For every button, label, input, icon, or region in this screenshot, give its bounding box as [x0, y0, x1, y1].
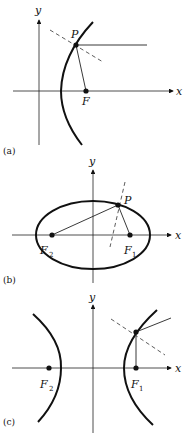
- x-axis-label: x: [176, 85, 183, 98]
- focus-f1-label: F: [123, 244, 132, 257]
- focus-f2-label: F: [39, 244, 48, 257]
- caption-b: (b): [3, 275, 16, 285]
- caption-c: (c): [3, 417, 15, 427]
- tangent-line: [111, 319, 165, 355]
- focus-f2: [46, 365, 51, 370]
- y-axis-label: y: [88, 291, 96, 304]
- focus-f1-subscript: 1: [132, 251, 136, 259]
- focus-f2-label: F: [39, 378, 48, 391]
- point-p: [73, 42, 78, 47]
- point-p: [115, 202, 120, 207]
- conic-sections-figure: x y P F (a) x y P F 2 F 1 (b) x y: [0, 0, 193, 435]
- point-p-label: P: [70, 28, 79, 41]
- focus-f-label: F: [81, 95, 90, 108]
- ray-to-f1: [118, 205, 130, 235]
- point-p: [133, 329, 138, 334]
- y-axis-label: y: [88, 155, 96, 168]
- x-axis-label: x: [175, 362, 182, 375]
- focus-f1: [133, 365, 138, 370]
- focus-f2: [49, 232, 54, 237]
- focus-f2-subscript: 2: [49, 251, 53, 259]
- panel-c-hyperbola: x y F 2 F 1 (c): [3, 291, 182, 433]
- point-p-label: P: [123, 194, 132, 207]
- focus-f: [83, 88, 88, 93]
- panel-a-parabola: x y P F (a): [3, 4, 183, 156]
- x-axis-label: x: [175, 229, 182, 242]
- y-axis-label: y: [34, 4, 42, 17]
- panel-b-ellipse: x y P F 2 F 1 (b): [3, 155, 182, 285]
- reflected-ray: [76, 45, 86, 91]
- focus-f1-subscript: 1: [139, 385, 143, 393]
- ray-from-f2: [52, 205, 118, 235]
- focus-f2-subscript: 2: [49, 385, 53, 393]
- normal-line: [110, 182, 125, 247]
- caption-a: (a): [3, 146, 15, 156]
- hyperbola-right-branch: [124, 310, 157, 425]
- focus-f1-label: F: [130, 378, 139, 391]
- focus-f1: [127, 232, 132, 237]
